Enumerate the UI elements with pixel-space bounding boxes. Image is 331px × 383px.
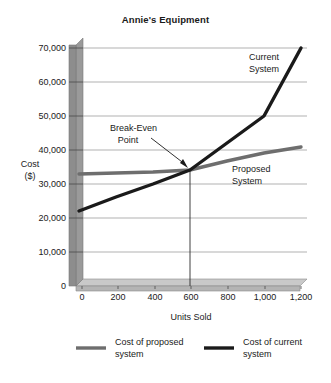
x-axis-title: Units Sold	[170, 312, 211, 322]
axis-wall-side	[69, 45, 76, 286]
break-even-label-line1: Break-Even	[110, 123, 157, 133]
legend-label-current-line1: Cost of current	[243, 337, 303, 347]
series-label-current-line2: System	[249, 64, 279, 74]
chart-plot-area: 70,000 60,000 50,000 40,000 30,000 20,00…	[0, 0, 331, 383]
x-tick-label: 400	[147, 292, 162, 302]
y-tick-label: 10,000	[38, 247, 66, 257]
x-tick-label: 1,000	[254, 292, 277, 302]
x-tick-label: 0	[79, 292, 84, 302]
legend-label-current-line2: system	[243, 349, 272, 359]
break-even-annotation: Break-Even Point	[110, 123, 188, 168]
series-label-current-system: Current System	[249, 52, 280, 74]
x-tick-label: 600	[183, 292, 198, 302]
y-axis-title-line2: ($)	[25, 171, 36, 181]
chart-container: Annie's Equipment	[0, 0, 331, 383]
break-even-arrow-shaft	[151, 138, 186, 165]
y-axis-tick-labels: 70,000 60,000 50,000 40,000 30,000 20,00…	[38, 43, 66, 291]
axis-floor-top	[76, 279, 307, 286]
chart-legend: Cost of proposed system Cost of current …	[76, 337, 303, 359]
break-even-label-line2: Point	[118, 135, 139, 145]
y-tick-label: 60,000	[38, 77, 66, 87]
axis-wall-front	[76, 38, 83, 286]
y-tick-label: 50,000	[38, 111, 66, 121]
axis-floor-front	[76, 286, 300, 291]
x-axis-tick-labels: 0 200 400 600 800 1,000 1,200	[79, 292, 312, 302]
y-axis-title: Cost ($)	[21, 159, 40, 181]
x-tick-label: 800	[220, 292, 235, 302]
y-axis-title-line1: Cost	[21, 159, 40, 169]
break-even-arrow-head	[180, 159, 188, 168]
y-tick-label: 20,000	[38, 213, 66, 223]
legend-label-proposed-line1: Cost of proposed	[115, 337, 184, 347]
series-label-proposed-line1: Proposed	[232, 164, 271, 174]
legend-item-proposed-system: Cost of proposed system	[76, 337, 184, 359]
series-label-proposed-line2: System	[232, 176, 262, 186]
y-tick-label: 40,000	[38, 145, 66, 155]
y-tick-label: 70,000	[38, 43, 66, 53]
series-label-proposed-system: Proposed System	[232, 164, 271, 186]
legend-label-proposed-line2: system	[115, 349, 144, 359]
y-tick-label: 0	[61, 281, 66, 291]
x-tick-label: 1,200	[290, 292, 313, 302]
legend-item-current-system: Cost of current system	[204, 337, 303, 359]
series-label-current-line1: Current	[249, 52, 280, 62]
y-tick-label: 30,000	[38, 179, 66, 189]
x-tick-label: 200	[110, 292, 125, 302]
